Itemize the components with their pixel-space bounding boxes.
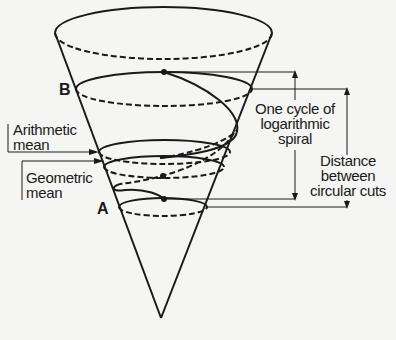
cone-spiral-diagram: B A Arithmetic mean Geometric mean One c…	[0, 0, 396, 340]
spiral-point-middle	[160, 173, 166, 179]
arithmetic-mean-label: Arithmetic mean	[13, 122, 77, 152]
cycle-bracket-top	[164, 72, 295, 100]
distance-label-line3: circular cuts	[302, 183, 394, 198]
distance-bracket-bottom	[207, 200, 347, 207]
geometric-mean-label: Geometric mean	[26, 170, 93, 200]
spiral-front-1	[160, 72, 237, 158]
arithmetic-label-line2: mean	[13, 137, 77, 152]
cycle-label: One cycle of logarithmic spiral	[249, 101, 341, 146]
top-ellipse-back	[55, 33, 272, 59]
cycle-arrow-up	[292, 70, 298, 78]
cycle-label-line1: One cycle of	[249, 101, 341, 116]
cycle-label-line3: spiral	[249, 131, 341, 146]
cycle-arrow-down	[292, 193, 298, 201]
cycle-label-line2: logarithmic	[249, 116, 341, 131]
ellipse-a-back	[119, 207, 207, 216]
top-ellipse-front	[55, 7, 272, 33]
spiral-front-2	[114, 184, 164, 199]
distance-label-line2: between	[302, 168, 394, 183]
distance-arrow-down	[344, 201, 350, 209]
distance-arrow-up	[344, 87, 350, 95]
arithmetic-label-line1: Arithmetic	[13, 122, 77, 137]
geometric-label-line2: mean	[26, 185, 93, 200]
distance-label-line1: Distance	[302, 153, 394, 168]
ellipse-b-back	[76, 89, 252, 106]
distance-label: Distance between circular cuts	[302, 153, 394, 198]
point-a-label: A	[97, 201, 108, 216]
geometric-label-line1: Geometric	[26, 170, 93, 185]
point-b-label: B	[59, 82, 70, 97]
